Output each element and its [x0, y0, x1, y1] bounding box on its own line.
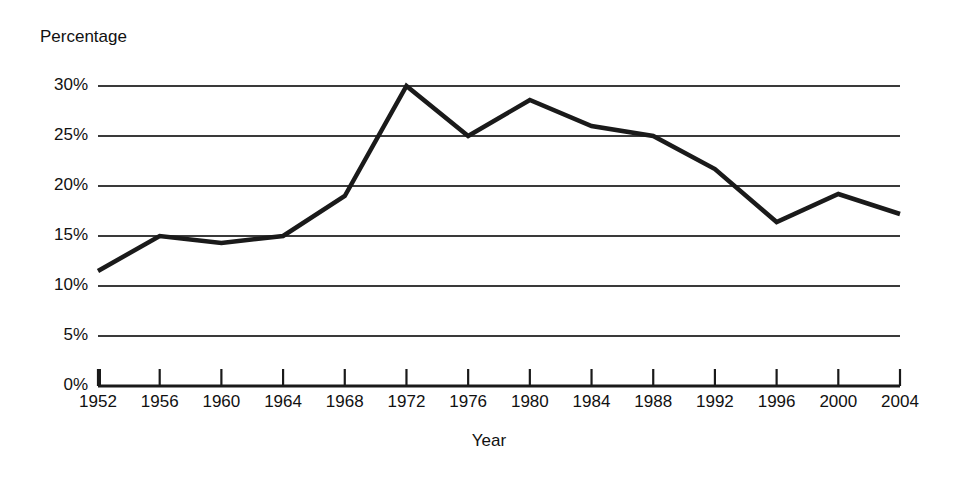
y-axis-tick-label: 5%	[34, 325, 88, 345]
y-axis-tick-label: 10%	[34, 275, 88, 295]
x-axis-title: Year	[0, 431, 958, 451]
y-axis-tick-label: 15%	[34, 225, 88, 245]
x-axis-ticks	[98, 369, 900, 386]
x-axis-tick-label: 1996	[746, 392, 808, 412]
x-axis-tick-label: 1992	[684, 392, 746, 412]
x-axis-tick-label: 2004	[869, 392, 931, 412]
y-axis-tick-label: 25%	[34, 125, 88, 145]
x-axis-tick-label: 1952	[67, 392, 129, 412]
x-axis-tick-label: 1972	[375, 392, 437, 412]
y-axis-tick-label: 30%	[34, 75, 88, 95]
y-axis-tick-label: 20%	[34, 175, 88, 195]
x-axis-tick-label: 1980	[499, 392, 561, 412]
gridlines	[98, 86, 900, 336]
x-axis-tick-label: 1964	[252, 392, 314, 412]
x-axis-tick-label: 1988	[622, 392, 684, 412]
line-chart: Percentage 30%25%20%15%10%5%0% 195219561…	[0, 0, 958, 483]
x-axis-tick-label: 2000	[807, 392, 869, 412]
data-series-line	[98, 86, 900, 271]
x-axis-title-text: Year	[472, 431, 506, 450]
x-axis-tick-label: 1984	[561, 392, 623, 412]
x-axis-tick-label: 1976	[437, 392, 499, 412]
x-axis-tick-label: 1968	[314, 392, 376, 412]
x-axis-tick-label: 1960	[190, 392, 252, 412]
x-axis-tick-label: 1956	[129, 392, 191, 412]
